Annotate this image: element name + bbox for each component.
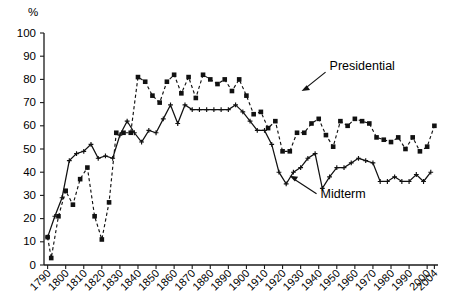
data-point-marker (345, 124, 350, 129)
data-point-marker (201, 72, 206, 77)
turnout-chart: %010203040506070809010017901800181018201… (0, 0, 456, 302)
data-point-marker (222, 77, 227, 82)
data-point-marker (208, 77, 213, 82)
data-point-marker (179, 91, 184, 96)
data-point-marker (136, 75, 141, 80)
y-tick-label: 40 (23, 166, 36, 178)
data-point-marker (295, 130, 300, 135)
data-point-marker (114, 130, 119, 135)
data-point-marker (103, 154, 108, 159)
data-point-marker (432, 124, 437, 129)
data-point-marker (403, 147, 408, 152)
data-point-marker (186, 75, 191, 80)
data-point-marker (194, 96, 199, 101)
data-point-marker (302, 130, 307, 135)
chart-canvas: %010203040506070809010017901800181018201… (0, 0, 456, 302)
data-point-marker (107, 200, 112, 205)
data-point-marker (211, 107, 216, 112)
data-point-marker (273, 119, 278, 124)
data-point-marker (219, 107, 224, 112)
data-point-marker (230, 89, 235, 94)
annotation-midterm-arrow (294, 179, 317, 194)
data-point-marker (360, 119, 365, 124)
data-point-marker (143, 79, 148, 84)
data-point-marker (157, 100, 162, 105)
series-markers-midterm (45, 103, 433, 240)
data-point-marker (251, 112, 256, 117)
y-tick-label: 90 (23, 50, 36, 62)
data-point-marker (316, 117, 321, 122)
data-point-marker (172, 72, 177, 77)
data-point-marker (378, 179, 383, 184)
data-point-marker (161, 116, 166, 121)
data-point-marker (259, 110, 264, 115)
data-point-marker (92, 214, 97, 219)
data-point-marker (418, 149, 423, 154)
data-point-marker (150, 93, 155, 98)
y-tick-label: 10 (23, 235, 36, 247)
data-point-marker (338, 119, 343, 124)
y-tick-label: 100 (17, 27, 36, 39)
annotation-midterm-label: Midterm (321, 187, 366, 201)
data-point-marker (389, 140, 394, 145)
data-point-marker (280, 149, 285, 154)
data-point-marker (71, 202, 76, 207)
series-line-presidential (48, 75, 435, 258)
data-point-marker (100, 237, 105, 242)
data-point-marker (374, 135, 379, 140)
data-point-marker (168, 103, 173, 108)
data-point-marker (96, 156, 101, 161)
data-point-marker (154, 130, 159, 135)
data-point-marker (215, 82, 220, 87)
data-point-marker (78, 177, 83, 182)
y-tick-label: 20 (23, 212, 36, 224)
y-tick-label: 60 (23, 119, 36, 131)
data-point-marker (410, 135, 415, 140)
data-point-marker (363, 158, 368, 163)
data-point-marker (85, 165, 90, 170)
y-tick-label: 80 (23, 73, 36, 85)
data-point-marker (175, 121, 180, 126)
data-point-marker (353, 117, 358, 122)
y-tick-label: 50 (23, 143, 36, 155)
data-point-marker (371, 161, 376, 166)
series-line-midterm (48, 105, 431, 237)
data-point-marker (381, 137, 386, 142)
data-point-marker (288, 149, 293, 154)
annotation-presidential-label: Presidential (330, 59, 395, 73)
data-point-marker (244, 93, 249, 98)
data-point-marker (324, 133, 329, 138)
annotation-presidential-arrow (306, 72, 326, 88)
data-point-marker (367, 121, 372, 126)
data-point-marker (309, 121, 314, 126)
x-tick-label: 2004 (414, 267, 440, 293)
data-point-marker (49, 256, 54, 261)
y-tick-label: 70 (23, 96, 36, 108)
y-axis-unit-label: % (28, 6, 38, 18)
data-point-marker (266, 126, 271, 131)
data-point-marker (425, 144, 430, 149)
series-markers-presidential (45, 72, 436, 260)
y-tick-label: 30 (23, 189, 36, 201)
data-point-marker (269, 142, 274, 147)
data-point-marker (237, 77, 242, 82)
data-point-marker (204, 107, 209, 112)
y-tick-label: 0 (30, 259, 36, 271)
data-point-marker (165, 79, 170, 84)
data-point-marker (197, 107, 202, 112)
data-point-marker (331, 144, 336, 149)
data-point-marker (396, 135, 401, 140)
